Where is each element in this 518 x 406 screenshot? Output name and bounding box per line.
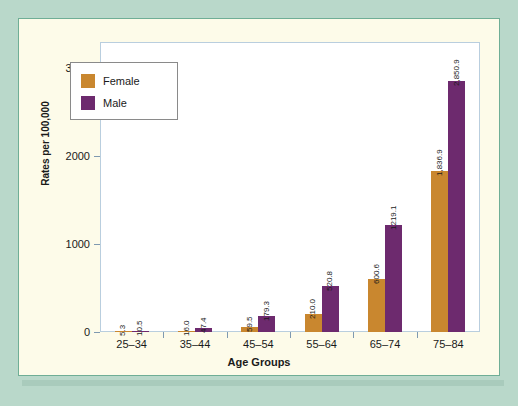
bar-value-label: 600.6 [372,264,381,284]
x-tick-label: 55–64 [306,338,337,350]
legend-label: Female [103,74,140,88]
x-tick-mark [163,332,164,338]
bar-value-label: 520.8 [325,271,334,291]
bar-value-label: 179.3 [262,301,271,321]
x-tick-mark [417,332,418,338]
x-tick-label: 75–84 [433,338,464,350]
bar-male-65-74 [385,225,402,332]
bar-female-65-74 [368,279,385,332]
bar-value-label: 59.5 [245,316,254,332]
y-axis-title: Rates per 100,000 [40,54,51,234]
bar-female-75-84 [431,171,448,332]
bar-group: 600.61219.1 [368,42,402,332]
x-tick-mark [353,332,354,338]
y-tick-label: 2000 [48,150,90,162]
figure-frame: Rates per 100,000 0100020003000 25–3435–… [0,0,518,406]
bar-value-label: 2,850.9 [452,60,461,87]
figure-drop-shadow [22,380,504,386]
bar-group: 1,836.92,850.9 [431,42,465,332]
bar-value-label: 16.0 [182,320,191,336]
y-tick-label: 0 [48,326,90,338]
chart-legend: FemaleMale [70,62,178,120]
bar-value-label: 1219.1 [389,205,398,229]
x-tick-mark [290,332,291,338]
x-axis-title: Age Groups [18,356,500,368]
bar-value-label: 47.4 [199,317,208,333]
legend-label: Male [103,96,127,110]
bar-male-55-64 [322,286,339,332]
bar-group: 59.5179.3 [241,42,275,332]
legend-swatch-icon [81,96,95,110]
y-tick-mark [94,156,100,157]
x-tick-label: 35–44 [180,338,211,350]
bar-group: 210.0520.8 [305,42,339,332]
bar-value-label: 10.5 [135,320,144,336]
bar-chart: Rates per 100,000 0100020003000 25–3435–… [18,18,500,376]
bar-value-label: 5.3 [118,324,127,335]
y-tick-mark [94,332,100,333]
y-tick-label: 1000 [48,238,90,250]
bar-value-label: 1,836.9 [435,149,444,176]
bar-male-75-84 [448,81,465,332]
x-tick-mark [227,332,228,338]
bar-value-label: 210.0 [308,299,317,319]
x-tick-label: 45–54 [243,338,274,350]
y-tick-mark [94,244,100,245]
x-tick-label: 25–34 [116,338,147,350]
bar-group: 16.047.4 [178,42,212,332]
legend-swatch-icon [81,74,95,88]
x-tick-label: 65–74 [370,338,401,350]
